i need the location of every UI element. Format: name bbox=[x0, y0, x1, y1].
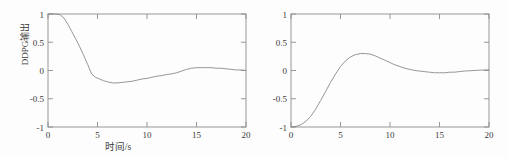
y-tick-label: -0.5 bbox=[273, 94, 288, 104]
plot-frame-left bbox=[48, 14, 246, 127]
y-tick-label: 0.5 bbox=[276, 38, 288, 48]
x-axis-label-left: 时间/s bbox=[105, 139, 131, 153]
chart-panel-left: 1 0.5 0 -0.5 -1 0 5 10 15 20 DDPG输出 时间/s bbox=[0, 0, 254, 158]
x-tick-label: 20 bbox=[485, 130, 495, 140]
y-tick-label: -0.5 bbox=[30, 94, 45, 104]
y-tick-label: 1 bbox=[40, 10, 45, 20]
y-tick-label: 1 bbox=[283, 10, 288, 20]
y-tick-label: -1 bbox=[280, 123, 288, 133]
x-tick-marks-right bbox=[291, 14, 489, 127]
y-tick-marks-right bbox=[291, 14, 489, 127]
y-tick-label: 0 bbox=[283, 66, 288, 76]
chart-panel-right: 1 0.5 0 -0.5 -1 0 5 10 15 20 角度误差/rad 时间… bbox=[254, 0, 508, 158]
x-tick-label: 10 bbox=[143, 130, 153, 140]
x-tick-label: 15 bbox=[192, 130, 202, 140]
figure-container: 1 0.5 0 -0.5 -1 0 5 10 15 20 DDPG输出 时间/s bbox=[0, 0, 508, 158]
y-tick-label: 0.5 bbox=[33, 38, 45, 48]
x-tick-label: 0 bbox=[46, 130, 51, 140]
plot-right: 1 0.5 0 -0.5 -1 0 5 10 15 20 bbox=[254, 0, 508, 158]
x-tick-label: 10 bbox=[386, 130, 396, 140]
data-curve-left bbox=[48, 14, 246, 83]
y-tick-marks-left bbox=[48, 14, 246, 127]
y-tick-label: -1 bbox=[37, 123, 45, 133]
data-curve-right bbox=[291, 54, 489, 127]
plot-left: 1 0.5 0 -0.5 -1 0 5 10 15 20 bbox=[0, 0, 254, 158]
x-tick-marks-left bbox=[48, 14, 246, 127]
x-tick-label: 0 bbox=[289, 130, 294, 140]
y-axis-label-left: DDPG输出 bbox=[18, 0, 31, 104]
x-tick-label: 5 bbox=[338, 130, 343, 140]
x-tick-label: 5 bbox=[95, 130, 100, 140]
x-tick-label: 20 bbox=[242, 130, 252, 140]
y-tick-label: 0 bbox=[40, 66, 45, 76]
x-tick-label: 15 bbox=[435, 130, 445, 140]
plot-frame-right bbox=[291, 14, 489, 127]
